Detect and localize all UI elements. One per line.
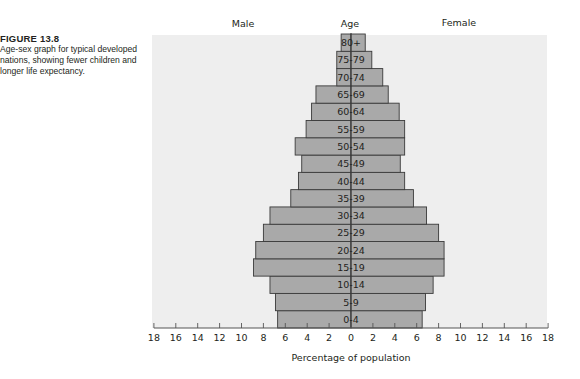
x-tick-label: 14: [498, 332, 510, 343]
x-tick-label: 18: [148, 332, 160, 343]
age-group-label: 15-19: [337, 262, 365, 273]
age-group-label: 40-44: [337, 176, 365, 187]
male-bar: [278, 311, 351, 328]
x-tick-label: 10: [235, 332, 247, 343]
female-bar: [351, 293, 425, 310]
population-pyramid-chart: Male Age Female 0-45-910-1415-1920-2425-…: [0, 0, 580, 379]
age-group-label: 70-74: [337, 72, 365, 83]
x-tick-label: 6: [282, 332, 288, 343]
age-label: Age: [341, 18, 360, 29]
x-tick-label: 14: [192, 332, 204, 343]
age-group-label: 30-34: [337, 210, 365, 221]
x-tick-label: 4: [304, 332, 310, 343]
x-tick-label: 2: [326, 332, 332, 343]
age-group-label: 80+: [341, 37, 361, 48]
age-group-label: 10-14: [337, 279, 365, 290]
age-group-label: 25-29: [337, 227, 365, 238]
age-group-label: 55-59: [337, 124, 365, 135]
x-tick-label: 16: [170, 332, 182, 343]
x-axis-title: Percentage of population: [291, 352, 410, 363]
x-tick-label: 8: [260, 332, 266, 343]
female-label: Female: [442, 17, 477, 28]
age-group-label: 45-49: [337, 158, 365, 169]
x-tick-label: 6: [414, 332, 420, 343]
x-tick-label: 16: [520, 332, 532, 343]
age-group-label: 60-64: [337, 106, 365, 117]
x-tick-label: 10: [454, 332, 466, 343]
x-tick-label: 4: [392, 332, 398, 343]
x-tick-label: 18: [542, 332, 554, 343]
female-bar: [351, 242, 444, 259]
age-group-label: 5-9: [343, 297, 359, 308]
age-group-label: 65-69: [337, 89, 365, 100]
female-bar: [351, 311, 422, 328]
x-tick-label: 12: [214, 332, 226, 343]
age-group-label: 50-54: [337, 141, 365, 152]
x-tick-label: 12: [476, 332, 488, 343]
age-group-label: 35-39: [337, 193, 365, 204]
male-bar: [275, 293, 351, 310]
female-bar: [351, 259, 444, 276]
age-group-label: 75-79: [337, 54, 365, 65]
x-tick-label: 8: [436, 332, 442, 343]
male-label: Male: [232, 18, 255, 29]
x-tick-label: 0: [348, 332, 354, 343]
x-tick-label: 2: [370, 332, 376, 343]
age-group-label: 20-24: [337, 245, 365, 256]
